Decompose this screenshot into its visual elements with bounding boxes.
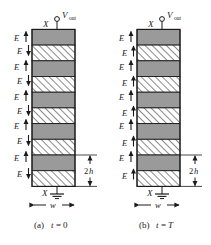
panel-b-caption: (b) t = T (139, 220, 174, 230)
thickness-label-prefix: 2 (84, 166, 88, 176)
layer-hatched (32, 77, 75, 93)
panel-a-layer-stack (32, 29, 75, 186)
field-label: E (16, 136, 23, 146)
output-voltage-sublabel: out (174, 15, 182, 21)
layer-gray (32, 155, 75, 171)
field-label: E (118, 62, 125, 72)
layer-gray (137, 61, 180, 77)
layer-hatched (32, 171, 75, 187)
layer-gray (32, 92, 75, 108)
field-label: E (118, 33, 125, 43)
layer-gray (137, 155, 180, 171)
caption-prefix: (a) (34, 220, 44, 230)
width-label: w (50, 200, 56, 210)
layer-gray (32, 61, 75, 77)
field-label: E (121, 138, 128, 148)
layer-gray (32, 29, 75, 45)
field-label: E (121, 48, 128, 58)
panel-b-bottom-terminal-label: X (146, 188, 153, 198)
width-label: w (155, 200, 161, 210)
layer-hatched (32, 45, 75, 61)
caption-equals: = (56, 220, 61, 230)
caption-equals: = (161, 220, 166, 230)
layer-gray (137, 29, 180, 45)
figure-canvas: V out X X E E E E (0, 0, 211, 245)
layer-gray (32, 124, 75, 140)
layer-gray (137, 124, 180, 140)
panel-b-top-terminal-label: X (147, 19, 154, 29)
layer-hatched (137, 139, 180, 155)
field-label: E (13, 33, 20, 43)
layer-hatched (137, 45, 180, 61)
layer-hatched (32, 108, 75, 124)
thickness-label-variable: h (194, 166, 198, 176)
panel-a-bottom-terminal-label: X (41, 188, 48, 198)
field-label: E (121, 171, 128, 181)
field-label: E (118, 153, 125, 163)
field-label: E (13, 121, 20, 131)
layer-hatched (32, 139, 75, 155)
output-terminal-node (160, 17, 165, 22)
layer-hatched (137, 77, 180, 93)
output-terminal-node (55, 17, 60, 22)
field-label: E (118, 92, 125, 102)
layer-hatched (137, 171, 180, 187)
panel-a-caption: (a) t = 0 (34, 220, 68, 230)
field-label: E (118, 121, 125, 131)
panel-b-layer-stack (137, 29, 180, 186)
field-label: E (16, 169, 23, 179)
field-label: E (121, 108, 128, 118)
caption-value: 0 (63, 220, 68, 230)
field-label: E (13, 92, 20, 102)
field-label: E (16, 46, 23, 56)
thickness-label-variable: h (89, 166, 93, 176)
field-label: E (16, 106, 23, 116)
output-voltage-sublabel: out (69, 15, 77, 21)
field-label: E (13, 62, 20, 72)
field-label: E (13, 153, 20, 163)
field-label: E (121, 78, 128, 88)
layer-hatched (137, 108, 180, 124)
caption-prefix: (b) (139, 220, 150, 230)
field-label: E (16, 76, 23, 86)
panel-a-top-terminal-label: X (42, 19, 49, 29)
piezoelectric-stack-figure: V out X X E E E E (0, 0, 211, 245)
layer-gray (137, 92, 180, 108)
thickness-label-prefix: 2 (189, 166, 193, 176)
